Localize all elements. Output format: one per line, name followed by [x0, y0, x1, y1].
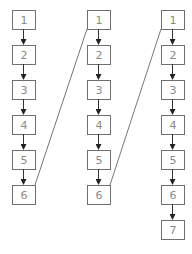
node-box: 4 [162, 116, 185, 135]
diagram-canvas: 1234561234561234567 [0, 0, 192, 254]
node-label: 1 [21, 14, 28, 27]
node-box: 5 [88, 151, 111, 170]
node-label: 5 [96, 154, 103, 167]
node-label: 4 [170, 119, 177, 132]
columns: 1234561234561234567 [13, 11, 185, 240]
node-box: 7 [162, 221, 185, 240]
node-label: 7 [170, 224, 177, 237]
node-label: 2 [21, 49, 28, 62]
node-label: 1 [170, 14, 177, 27]
node-label: 3 [170, 84, 177, 97]
column-3: 1234567 [162, 11, 185, 240]
cross-link-line [110, 29, 161, 185]
node-label: 1 [96, 14, 103, 27]
node-box: 4 [88, 116, 111, 135]
node-box: 6 [162, 186, 185, 205]
node-box: 3 [88, 81, 111, 100]
node-box: 1 [13, 11, 36, 30]
node-box: 6 [13, 186, 36, 205]
node-label: 3 [96, 84, 103, 97]
node-label: 5 [21, 154, 28, 167]
cross-link-line [35, 29, 87, 185]
node-label: 4 [96, 119, 103, 132]
node-label: 4 [21, 119, 28, 132]
node-box: 2 [88, 46, 111, 65]
node-label: 6 [21, 189, 28, 202]
node-label: 6 [170, 189, 177, 202]
node-box: 3 [13, 81, 36, 100]
node-box: 4 [13, 116, 36, 135]
node-box: 5 [13, 151, 36, 170]
node-box: 3 [162, 81, 185, 100]
column-2: 123456 [88, 11, 111, 205]
node-label: 5 [170, 154, 177, 167]
node-box: 2 [162, 46, 185, 65]
node-box: 5 [162, 151, 185, 170]
node-label: 2 [96, 49, 103, 62]
node-label: 2 [170, 49, 177, 62]
column-1: 123456 [13, 11, 36, 205]
node-label: 3 [21, 84, 28, 97]
node-label: 6 [96, 189, 103, 202]
node-box: 1 [162, 11, 185, 30]
node-box: 6 [88, 186, 111, 205]
node-box: 2 [13, 46, 36, 65]
node-box: 1 [88, 11, 111, 30]
